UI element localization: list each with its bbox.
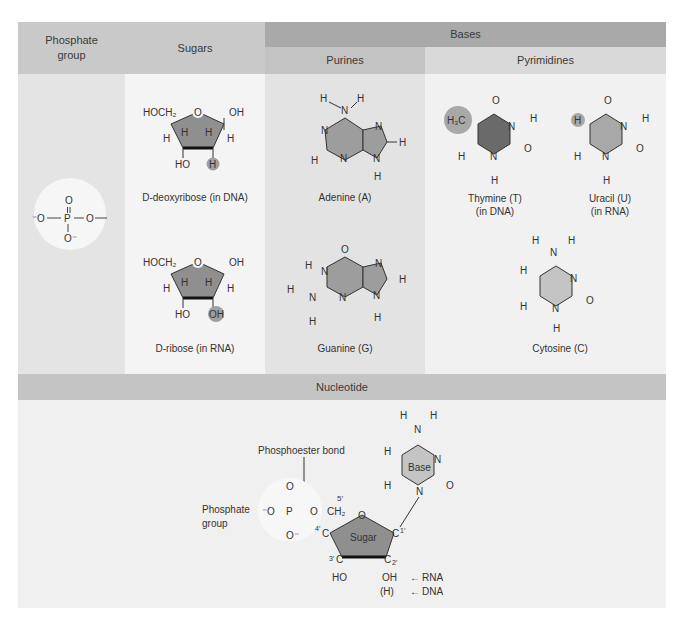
svg-text:H: H <box>163 133 170 144</box>
svg-text:H: H <box>530 113 537 124</box>
thymine-structure: H₃C ON HO NH H <box>440 96 550 191</box>
phosphate-o-right: O <box>86 213 94 224</box>
phosphate-label-2: group <box>202 518 228 529</box>
adenine-structure: HH N NN NN HH H <box>265 88 425 188</box>
svg-text:H: H <box>163 283 170 294</box>
svg-text:2′: 2′ <box>392 559 398 566</box>
svg-text:H: H <box>227 283 234 294</box>
caption-guanine: Guanine (G) <box>265 343 425 354</box>
svg-text:N: N <box>552 303 559 314</box>
svg-text:N: N <box>620 121 627 132</box>
c5-group: HOCH₂ <box>143 257 176 268</box>
rna-label: RNA <box>422 572 443 583</box>
svg-text:←: ← <box>410 586 420 597</box>
uracil-h: H <box>574 115 581 126</box>
header-sugars-label: Sugars <box>178 41 213 56</box>
svg-text:HO: HO <box>332 572 347 583</box>
svg-text:N: N <box>340 153 347 164</box>
svg-text:CH₂: CH₂ <box>327 506 345 517</box>
svg-text:O: O <box>310 506 318 517</box>
header-pyrimidines: Pyrimidines <box>425 47 666 74</box>
svg-text:O: O <box>524 143 532 154</box>
phosphate-o-top: O <box>65 195 73 206</box>
svg-text:N: N <box>309 292 316 303</box>
svg-text:N: N <box>414 424 421 435</box>
svg-text:H: H <box>399 137 406 148</box>
svg-text:N: N <box>570 273 577 284</box>
c2-oh: OH <box>209 309 224 320</box>
caption-deoxyribose: D-deoxyribose (in DNA) <box>125 192 265 203</box>
caption-adenine: Adenine (A) <box>265 192 425 203</box>
phosphate-label-1: Phosphate <box>202 504 250 515</box>
nucleotide-structure: Phosphoester bond Phosphate group O ⁻OP … <box>190 405 490 605</box>
svg-text:C: C <box>392 528 399 539</box>
svg-text:3′: 3′ <box>329 555 335 562</box>
c2-h: H <box>209 159 216 170</box>
svg-text:H: H <box>553 323 560 332</box>
header-purines-label: Purines <box>326 53 363 68</box>
svg-text:⁻O: ⁻O <box>262 506 275 517</box>
header-phosphate-line2: group <box>57 48 85 63</box>
svg-text:H: H <box>205 277 212 288</box>
svg-text:H: H <box>491 175 498 186</box>
svg-text:O: O <box>358 510 366 521</box>
svg-text:H: H <box>532 235 539 246</box>
svg-text:H: H <box>205 127 212 138</box>
svg-text:N: N <box>375 121 382 132</box>
svg-text:H: H <box>603 175 610 186</box>
svg-text:N: N <box>341 105 348 116</box>
svg-text:O: O <box>586 295 594 306</box>
svg-text:O⁻: O⁻ <box>286 530 299 541</box>
phosphate-o-left: ⁻O <box>32 213 45 224</box>
svg-text:N: N <box>416 486 423 497</box>
header-nucleotide: Nucleotide <box>18 374 666 400</box>
svg-text:H: H <box>384 446 391 457</box>
svg-text:N: N <box>434 454 441 465</box>
phosphate-p: P <box>64 213 71 224</box>
svg-text:←: ← <box>410 572 420 583</box>
phosphate-group-structure: O ⁻O P O O⁻ <box>18 160 125 280</box>
header-sugars: Sugars <box>125 22 265 74</box>
c1-oh: OH <box>229 107 244 118</box>
svg-text:N: N <box>339 292 346 303</box>
phosphoester-bond-label: Phosphoester bond <box>258 445 345 456</box>
svg-text:N: N <box>375 258 382 269</box>
c5-group: HOCH₂ <box>143 107 176 118</box>
ring-oxygen: O <box>194 257 202 268</box>
svg-text:P: P <box>286 506 293 517</box>
svg-text:1′: 1′ <box>400 527 406 534</box>
svg-text:H: H <box>642 113 649 124</box>
svg-text:H: H <box>574 151 581 162</box>
svg-text:H: H <box>400 410 407 421</box>
svg-text:H: H <box>309 316 316 327</box>
svg-text:C: C <box>322 528 329 539</box>
phosphate-o-bottom: O⁻ <box>64 233 77 244</box>
header-bases: Bases <box>265 22 666 47</box>
ring-oxygen: O <box>194 107 202 118</box>
header-pyrimidines-label: Pyrimidines <box>517 53 574 68</box>
svg-text:H: H <box>374 312 381 323</box>
svg-text:OH: OH <box>382 572 397 583</box>
svg-text:H: H <box>311 155 318 166</box>
cytosine-structure: HH N HN HO NH <box>510 232 610 332</box>
svg-text:(H): (H) <box>380 586 394 597</box>
dna-label: DNA <box>422 586 443 597</box>
header-bases-label: Bases <box>450 27 481 42</box>
svg-text:N: N <box>373 153 380 164</box>
caption-thymine: Thymine (T) (in DNA) <box>440 192 550 218</box>
svg-text:N: N <box>321 266 328 277</box>
deoxyribose-structure: O HOCH₂ OH H H H H HO H <box>125 100 265 180</box>
svg-text:C: C <box>336 554 343 565</box>
sugar-label: Sugar <box>350 532 377 543</box>
svg-text:H: H <box>320 93 327 104</box>
svg-text:N: N <box>508 121 515 132</box>
base-label: Base <box>408 462 431 473</box>
svg-text:N: N <box>490 151 497 162</box>
svg-text:O: O <box>636 143 644 154</box>
svg-text:C: C <box>384 554 391 565</box>
header-nucleotide-label: Nucleotide <box>316 380 368 395</box>
header-phosphate-line1: Phosphate <box>45 33 98 48</box>
svg-text:O: O <box>604 96 612 106</box>
svg-text:N: N <box>602 151 609 162</box>
guanine-structure: O HN NH HN NN HH <box>265 245 425 345</box>
